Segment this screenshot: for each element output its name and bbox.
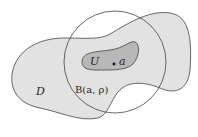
point-a-dot <box>113 63 116 66</box>
label-ball: B(a, ρ) <box>75 84 108 95</box>
label-a: a <box>119 55 126 68</box>
label-D: D <box>35 85 45 98</box>
diagram-canvas: U a D B(a, ρ) <box>0 0 198 137</box>
label-U: U <box>90 55 100 68</box>
